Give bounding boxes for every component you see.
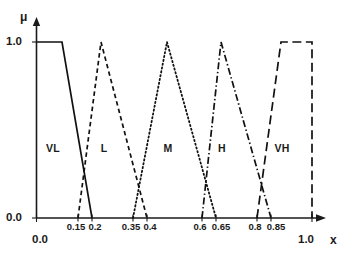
y-tick-label-bottom: 0.0	[6, 212, 22, 224]
curve-m	[133, 42, 216, 218]
y-axis-arrow-icon	[33, 17, 40, 26]
x-tick-label-2: 0.35	[122, 222, 141, 232]
x-axis-label: x	[330, 234, 337, 246]
x-tick-label-0: 0.15	[67, 222, 86, 232]
set-label-h: H	[218, 143, 226, 154]
x-origin-label: 0.0	[32, 234, 48, 246]
set-label-vl: VL	[46, 143, 60, 154]
y-tick-label-top: 1.0	[6, 36, 22, 48]
x-tick-label-3: 0.4	[143, 222, 156, 232]
x-tick-label-1: 0.2	[88, 222, 101, 232]
set-label-m: M	[163, 143, 172, 154]
curve-vl	[37, 42, 92, 218]
x-tick-label-5: 0.65	[212, 222, 231, 232]
x-tick-label-4: 0.6	[193, 222, 206, 232]
curve-h	[202, 42, 271, 218]
set-label-l: L	[101, 143, 108, 154]
fuzzy-membership-chart: μ x 1.0 0.0 0.0 1.0 0.15 0.2 0.35 0.4 0.…	[0, 0, 345, 261]
x-axis-arrow-icon	[316, 214, 326, 222]
x-tick-label-6: 0.8	[248, 222, 261, 232]
y-axis-label: μ	[20, 11, 27, 23]
x-tick-label-7: 0.85	[267, 222, 286, 232]
plot-area	[0, 0, 345, 261]
set-label-vh: VH	[274, 143, 289, 154]
curve-vh	[257, 42, 312, 218]
x-end-label: 1.0	[298, 234, 314, 246]
